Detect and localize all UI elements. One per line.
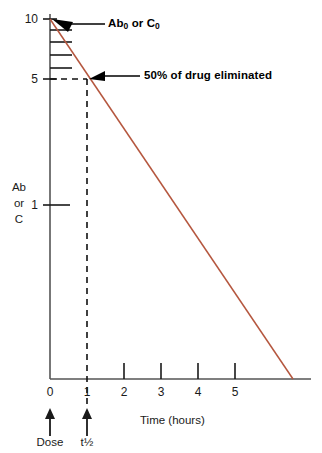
x-tick-label-4: 4 bbox=[188, 386, 208, 398]
y-tick-label-5: 5 bbox=[16, 73, 38, 85]
x-tick-label-0: 0 bbox=[40, 386, 60, 398]
dose-arrow-head bbox=[45, 408, 55, 419]
initial-amount-sub-2: 0 bbox=[155, 21, 160, 31]
y-axis-title-line-3: C bbox=[4, 214, 34, 226]
x-tick-label-5: 5 bbox=[225, 386, 245, 398]
half-life-arrow-head bbox=[82, 408, 92, 419]
initial-amount-sub-1: 0 bbox=[124, 21, 129, 31]
initial-amount-prefix: Ab bbox=[108, 17, 124, 29]
x-axis-title: Time (hours) bbox=[140, 415, 205, 427]
initial-amount-annotation: Ab0 or C0 bbox=[108, 18, 160, 30]
x-tick-label-1: 1 bbox=[77, 386, 97, 398]
half-life-marker-label: t½ bbox=[67, 437, 107, 449]
initial-amount-middle: or C bbox=[128, 17, 155, 29]
x-tick-label-2: 2 bbox=[114, 386, 134, 398]
pharmacokinetics-chart: 10 5 1 Ab or C 0 1 2 3 4 5 Time (hours) … bbox=[0, 0, 322, 453]
y-axis-title-line-2: or bbox=[4, 198, 34, 210]
x-tick-label-3: 3 bbox=[151, 386, 171, 398]
eliminated-annotation: 50% of drug eliminated bbox=[144, 70, 272, 82]
dose-marker-label: Dose bbox=[30, 437, 70, 449]
y-axis-title-line-1: Ab bbox=[4, 182, 34, 194]
y-tick-label-10: 10 bbox=[16, 13, 38, 25]
